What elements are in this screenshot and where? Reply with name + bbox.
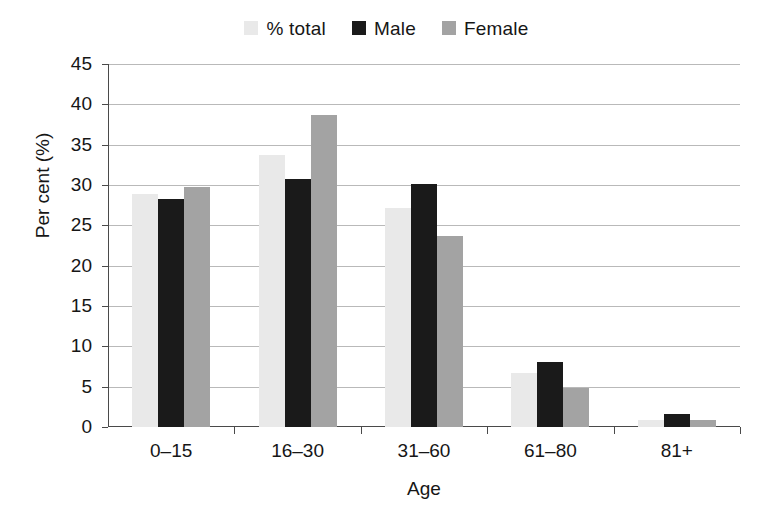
bar-female — [184, 187, 210, 427]
legend-item-percent-total: % total — [244, 19, 326, 38]
y-axis-tick-label: 25 — [50, 215, 92, 234]
bar-total — [511, 373, 537, 427]
bar-male — [285, 179, 311, 427]
x-axis-tick-mark — [234, 427, 235, 434]
bar-group — [259, 64, 337, 427]
y-axis-label: Per cent (%) — [33, 86, 52, 286]
bar-female — [311, 115, 337, 427]
y-axis-tick-label: 5 — [50, 377, 92, 396]
bar-female — [437, 236, 463, 427]
x-axis-tick-mark — [487, 427, 488, 434]
bar-male — [537, 362, 563, 427]
chart-legend: % total Male Female — [0, 16, 773, 40]
legend-item-male: Male — [352, 19, 416, 38]
x-axis-tick-label: 31–60 — [361, 440, 487, 462]
x-axis-tick-label: 16–30 — [234, 440, 360, 462]
x-axis-tick-mark — [614, 427, 615, 434]
bar-total — [132, 194, 158, 427]
legend-item-female: Female — [442, 19, 529, 38]
y-axis-tick-label: 20 — [50, 256, 92, 275]
bar-female — [690, 420, 716, 427]
y-axis-tick-label: 0 — [50, 417, 92, 436]
bar-group — [638, 64, 716, 427]
x-axis-tick-label: 0–15 — [108, 440, 234, 462]
y-axis-tick-label: 30 — [50, 175, 92, 194]
bar-total — [385, 208, 411, 427]
bar-total — [259, 155, 285, 427]
y-axis-tick-label: 35 — [50, 135, 92, 154]
bar-female — [563, 388, 589, 427]
x-axis-tick-label: 61–80 — [487, 440, 613, 462]
legend-label-female: Female — [464, 19, 529, 38]
bar-groups — [108, 64, 740, 427]
legend-swatch-female — [442, 21, 456, 35]
y-axis-tick-mark — [102, 427, 108, 428]
legend-swatch-male — [352, 21, 366, 35]
y-axis-tick-label: 40 — [50, 94, 92, 113]
bar-total — [638, 420, 664, 427]
y-axis-tick-label: 15 — [50, 296, 92, 315]
bar-male — [411, 184, 437, 427]
x-axis-tick-label: 81+ — [614, 440, 740, 462]
bar-group — [385, 64, 463, 427]
bar-chart: % total Male Female Per cent (%) 4540353… — [0, 0, 773, 527]
bar-male — [158, 199, 184, 427]
x-axis-tick-mark — [361, 427, 362, 434]
legend-label-percent-total: % total — [266, 19, 326, 38]
legend-label-male: Male — [374, 19, 416, 38]
legend-swatch-percent-total — [244, 21, 258, 35]
bar-group — [132, 64, 210, 427]
y-axis-tick-label: 45 — [50, 54, 92, 73]
x-axis-tick-mark — [740, 427, 741, 434]
x-axis-label: Age — [108, 478, 740, 499]
bar-group — [511, 64, 589, 427]
bar-male — [664, 414, 690, 427]
y-axis-tick-label: 10 — [50, 336, 92, 355]
